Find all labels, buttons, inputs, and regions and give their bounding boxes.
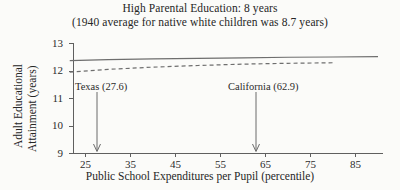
x-tick-label-75: 75 xyxy=(296,158,325,170)
annotation-label-texas: Texas (27.6) xyxy=(75,81,127,92)
x-tick-label-55: 55 xyxy=(206,158,235,170)
series-line-dashed xyxy=(70,63,333,72)
annotation-label-california: California (62.9) xyxy=(228,81,299,92)
x-axis-ticks xyxy=(86,154,356,158)
x-axis-title: Public School Expenditures per Pupil (pe… xyxy=(0,170,400,182)
x-tick-label-85: 85 xyxy=(341,158,370,170)
x-tick-label-35: 35 xyxy=(116,158,145,170)
california-arrow xyxy=(253,92,260,152)
x-tick-label-25: 25 xyxy=(71,158,100,170)
y-tick-label-12: 12 xyxy=(45,64,63,76)
series-line-solid xyxy=(70,57,378,61)
y-tick-label-9: 9 xyxy=(45,147,63,159)
y-tick-label-11: 11 xyxy=(45,92,63,104)
y-tick-label-10: 10 xyxy=(45,119,63,131)
x-tick-label-65: 65 xyxy=(251,158,280,170)
y-axis-title-line2: Attainment (years) xyxy=(26,65,38,152)
chart-figure: High Parental Education: 8 years (1940 a… xyxy=(0,0,400,190)
y-axis-title-line1: Adult Educational xyxy=(12,64,24,148)
y-tick-label-13: 13 xyxy=(45,37,63,49)
texas-arrow xyxy=(94,92,101,152)
x-tick-label-45: 45 xyxy=(161,158,190,170)
